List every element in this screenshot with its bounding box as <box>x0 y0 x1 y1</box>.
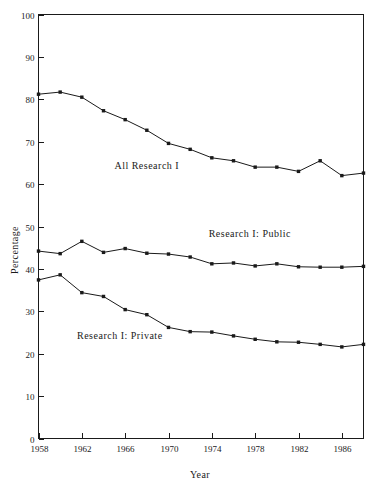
data-point-marker <box>318 266 321 269</box>
y-tick-label: 20 <box>26 350 36 360</box>
data-point-marker <box>253 338 256 341</box>
data-point-marker <box>297 341 300 344</box>
series-line <box>39 241 364 267</box>
y-tick-label: 80 <box>26 95 36 105</box>
series-line <box>39 92 364 176</box>
data-point-marker <box>188 148 191 151</box>
data-point-marker <box>340 345 343 348</box>
data-point-marker <box>253 165 256 168</box>
x-tick-label: 1970 <box>161 444 180 454</box>
data-point-marker <box>362 343 365 346</box>
data-point-marker <box>37 249 40 252</box>
y-tick-label: 70 <box>26 138 36 148</box>
data-point-marker <box>167 252 170 255</box>
x-axis-title: Year <box>190 469 210 480</box>
line-chart: 0102030405060708090100 19581962196619701… <box>0 0 379 487</box>
data-point-marker <box>275 262 278 265</box>
data-point-marker <box>232 261 235 264</box>
data-point-marker <box>275 165 278 168</box>
data-point-marker <box>362 171 365 174</box>
data-point-marker <box>145 313 148 316</box>
y-tick-label: 100 <box>21 11 35 21</box>
data-point-marker <box>37 278 40 281</box>
data-point-marker <box>123 247 126 250</box>
data-point-marker <box>167 326 170 329</box>
data-point-marker <box>123 308 126 311</box>
data-point-marker <box>145 129 148 132</box>
data-point-marker <box>210 262 213 265</box>
data-series <box>37 240 365 269</box>
data-point-marker <box>318 159 321 162</box>
data-point-marker <box>188 330 191 333</box>
data-point-marker <box>80 291 83 294</box>
y-tick-label: 90 <box>26 53 36 63</box>
data-point-marker <box>102 109 105 112</box>
data-series <box>37 90 365 177</box>
data-point-marker <box>210 330 213 333</box>
data-point-marker <box>297 170 300 173</box>
axis-rectangle <box>39 15 364 439</box>
y-axis-title: Percentage <box>9 226 20 274</box>
y-tick-label: 60 <box>26 180 36 190</box>
data-point-marker <box>210 156 213 159</box>
data-point-marker <box>123 118 126 121</box>
data-point-marker <box>318 343 321 346</box>
data-point-marker <box>297 265 300 268</box>
y-tick-label: 10 <box>26 392 36 402</box>
data-point-marker <box>362 265 365 268</box>
y-tick-label: 50 <box>26 223 36 233</box>
x-axis-ticks: 19581962196619701974197819821986 <box>31 433 353 454</box>
data-point-marker <box>232 334 235 337</box>
data-point-marker <box>37 93 40 96</box>
y-axis-ticks: 0102030405060708090100 <box>21 11 44 445</box>
data-point-marker <box>102 251 105 254</box>
data-point-marker <box>232 159 235 162</box>
x-tick-label: 1982 <box>291 444 309 454</box>
data-point-marker <box>145 252 148 255</box>
data-point-marker <box>340 266 343 269</box>
data-point-marker <box>275 340 278 343</box>
chart-figure: 0102030405060708090100 19581962196619701… <box>0 0 379 487</box>
data-point-marker <box>58 252 61 255</box>
data-point-marker <box>102 295 105 298</box>
series-label: Research I: Private <box>77 330 163 341</box>
data-point-marker <box>253 264 256 267</box>
series-annotations: All Research IResearch I: PublicResearch… <box>77 160 291 341</box>
y-tick-label: 30 <box>26 307 36 317</box>
data-point-marker <box>80 95 83 98</box>
data-point-marker <box>80 240 83 243</box>
x-tick-label: 1974 <box>204 444 223 454</box>
x-tick-label: 1966 <box>117 444 136 454</box>
data-point-marker <box>188 255 191 258</box>
x-tick-label: 1958 <box>31 444 50 454</box>
data-point-marker <box>58 273 61 276</box>
data-point-marker <box>58 90 61 93</box>
data-point-marker <box>167 142 170 145</box>
series-layer <box>37 90 365 348</box>
series-label: Research I: Public <box>209 228 291 239</box>
series-label: All Research I <box>114 160 179 171</box>
x-tick-label: 1978 <box>247 444 266 454</box>
data-point-marker <box>340 174 343 177</box>
x-tick-label: 1986 <box>334 444 353 454</box>
x-tick-label: 1962 <box>74 444 92 454</box>
y-tick-label: 40 <box>26 265 36 275</box>
plot-frame <box>39 15 364 439</box>
